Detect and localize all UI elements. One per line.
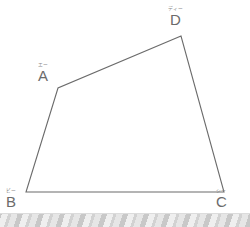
furigana-a: エー [38, 62, 48, 67]
vertex-label-a: エー A [38, 62, 48, 83]
bottom-striped-band [0, 214, 250, 227]
vertex-letter-b: B [6, 194, 16, 209]
furigana-b: ビー [6, 188, 16, 193]
quadrilateral-figure [0, 0, 250, 227]
vertex-letter-c: C [216, 194, 227, 209]
vertex-letter-a: A [38, 68, 48, 83]
vertex-label-c: シー C [216, 188, 227, 209]
vertex-label-b: ビー B [6, 188, 16, 209]
vertex-letter-d: D [170, 12, 181, 27]
quadrilateral-path [26, 36, 224, 192]
furigana-d: ディー [168, 6, 182, 11]
figure-screenshot: エー A ビー B シー C ディー D [0, 0, 250, 227]
furigana-c: シー [217, 188, 227, 193]
vertex-label-d: ディー D [168, 6, 183, 27]
